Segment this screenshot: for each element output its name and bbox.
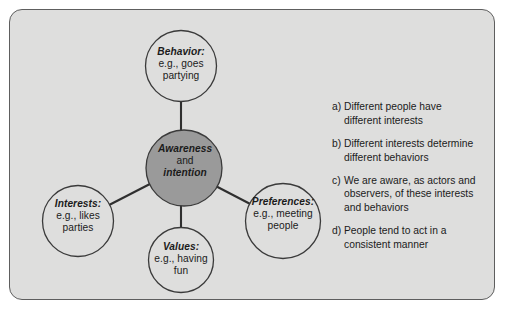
figure-root: Behavior: e.g., goes partying Awareness … [0,0,506,317]
proposition-list: a) Different people have different inter… [332,100,484,252]
proposition-item-c: c) We are aware, as actors and observers… [332,174,484,216]
proposition-d-line2: consistent manner [344,238,484,252]
proposition-d-marker: d) [332,224,344,252]
proposition-c-line3: and behaviors [344,201,484,215]
proposition-a-line1: Different people have [344,100,484,114]
proposition-b-line2: different behaviors [344,151,484,165]
proposition-a-line2: different interests [344,114,484,128]
proposition-c-text: We are aware, as actors and observers, o… [344,174,484,216]
proposition-b-marker: b) [332,137,344,165]
proposition-item-b: b) Different interests determine differe… [332,137,484,165]
proposition-d-text: People tend to act in a consistent manne… [344,224,484,252]
proposition-c-line2: observers, of these interests [344,187,484,201]
proposition-b-text: Different interests determine different … [344,137,484,165]
proposition-item-a: a) Different people have different inter… [332,100,484,128]
proposition-a-text: Different people have different interest… [344,100,484,128]
proposition-a-marker: a) [332,100,344,128]
proposition-d-line1: People tend to act in a [344,224,484,238]
proposition-c-marker: c) [332,174,344,216]
proposition-b-line1: Different interests determine [344,137,484,151]
proposition-c-line1: We are aware, as actors and [344,174,484,188]
proposition-item-d: d) People tend to act in a consistent ma… [332,224,484,252]
